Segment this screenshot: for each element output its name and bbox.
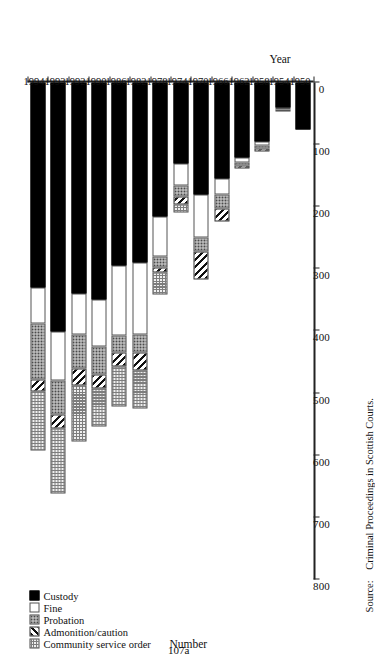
legend-item-custody: Custody xyxy=(30,586,79,604)
bar-group xyxy=(30,83,45,580)
category-label-1962: 1962 xyxy=(228,76,249,87)
legend-label-fine: Fine xyxy=(44,603,63,614)
bar-group xyxy=(214,83,229,580)
value-tick-label: 500 xyxy=(299,393,345,405)
value-tick-label: 300 xyxy=(299,269,345,281)
bar-segment-custody xyxy=(71,83,86,294)
bar-segment-admonition xyxy=(92,375,107,389)
bar-group xyxy=(92,83,107,580)
bar-segment-custody xyxy=(30,83,45,288)
legend-label-custody: Custody xyxy=(44,591,79,602)
bar-segment-fine xyxy=(275,107,290,109)
value-tick-label: 800 xyxy=(299,580,345,592)
bar-group xyxy=(112,83,127,580)
bar-group xyxy=(235,83,250,580)
bar-segment-cso xyxy=(112,366,127,406)
bar-segment-fine xyxy=(173,163,188,185)
stacked-bar-1954 xyxy=(275,83,290,112)
bar-segment-cso xyxy=(132,370,147,409)
source-label: Source: xyxy=(364,580,375,612)
legend-swatch-admonition xyxy=(30,627,40,637)
category-axis-title: Year xyxy=(270,53,291,65)
stacked-bar-1966 xyxy=(214,83,229,222)
bar-segment-probation xyxy=(214,194,229,208)
stacked-bar-1993 xyxy=(51,83,66,494)
bar-group xyxy=(153,83,168,580)
bar-group xyxy=(71,83,86,580)
category-label-1970: 1970 xyxy=(187,76,208,87)
bar-segment-probation xyxy=(112,335,127,352)
bar-segment-fine xyxy=(71,294,86,334)
bar-segment-cso xyxy=(173,205,188,212)
value-tick-label: 400 xyxy=(299,331,345,343)
bar-segment-fine xyxy=(112,266,127,336)
bar-segment-probation xyxy=(30,324,45,380)
value-tick-label: 700 xyxy=(299,517,345,529)
bar-segment-admonition xyxy=(255,149,270,151)
bar-group xyxy=(51,83,66,580)
stacked-bar-1982 xyxy=(132,83,147,409)
category-label-1978: 1978 xyxy=(146,76,167,87)
category-label-1950: 1950 xyxy=(289,76,310,87)
category-label-1986: 1986 xyxy=(105,76,126,87)
legend-swatch-custody xyxy=(30,591,40,601)
bar-group xyxy=(173,83,188,580)
category-label-1993: 1993 xyxy=(44,76,65,87)
bar-segment-probation xyxy=(92,347,107,375)
bar-segment-probation xyxy=(153,256,168,267)
bar-segment-cso xyxy=(92,388,107,427)
bar-group xyxy=(194,83,209,580)
bar-segment-custody xyxy=(173,83,188,164)
legend-label-cso: Community service order xyxy=(44,639,151,650)
bar-segment-custody xyxy=(235,83,250,158)
plot-area xyxy=(28,83,314,580)
bar-segment-admonition xyxy=(132,353,147,370)
category-label-1982: 1982 xyxy=(126,76,147,87)
bar-segment-probation xyxy=(132,334,147,353)
bar-segment-cso xyxy=(51,429,66,494)
value-tick-label: 100 xyxy=(299,145,345,157)
bar-segment-cso xyxy=(153,273,168,295)
bar-segment-probation xyxy=(255,145,270,149)
stacked-bar-1992 xyxy=(71,83,86,442)
stacked-bar-1962 xyxy=(235,83,250,169)
bar-segment-custody xyxy=(92,83,107,300)
category-tick xyxy=(314,77,315,83)
stacked-bar-1970 xyxy=(194,83,209,280)
source-text: Criminal Proceedings in Scottish Courts. xyxy=(364,398,375,570)
bar-segment-custody xyxy=(112,83,127,266)
bar-segment-probation xyxy=(51,381,66,415)
stacked-bar-1978 xyxy=(153,83,168,295)
stacked-bar-1990 xyxy=(92,83,107,427)
bar-segment-admonition xyxy=(71,368,86,385)
category-label-1994: 1994 xyxy=(24,76,45,87)
bar-segment-admonition xyxy=(235,166,250,168)
bar-group xyxy=(275,83,290,580)
category-label-1958: 1958 xyxy=(248,76,269,87)
legend-swatch-fine xyxy=(30,603,40,613)
folio-number: 107a xyxy=(168,644,189,656)
bar-segment-admonition xyxy=(30,379,45,391)
value-tick-label: 200 xyxy=(299,207,345,219)
bar-segment-probation xyxy=(275,110,290,112)
bar-segment-fine xyxy=(153,216,168,256)
bar-segment-custody xyxy=(153,83,168,217)
legend-swatch-probation xyxy=(30,615,40,625)
bar-segment-custody xyxy=(214,83,229,179)
category-label-1954: 1954 xyxy=(269,76,290,87)
bar-segment-custody xyxy=(255,83,270,142)
category-label-1990: 1990 xyxy=(85,76,106,87)
bar-segment-fine xyxy=(92,300,107,347)
bar-segment-admonition xyxy=(112,353,127,367)
chart-canvas: 8007006005004003002001000 Number 1994199… xyxy=(20,33,350,638)
category-label-1966: 1966 xyxy=(208,76,229,87)
bar-segment-cso xyxy=(71,386,86,442)
bar-segment-fine xyxy=(194,194,209,237)
bar-segment-fine xyxy=(235,157,250,162)
bar-segment-probation xyxy=(173,185,188,196)
category-label-1992: 1992 xyxy=(65,76,86,87)
bar-segment-fine xyxy=(214,179,229,195)
bar-segment-admonition xyxy=(153,268,168,273)
source-note: Source: Criminal Proceedings in Scottish… xyxy=(364,398,375,612)
